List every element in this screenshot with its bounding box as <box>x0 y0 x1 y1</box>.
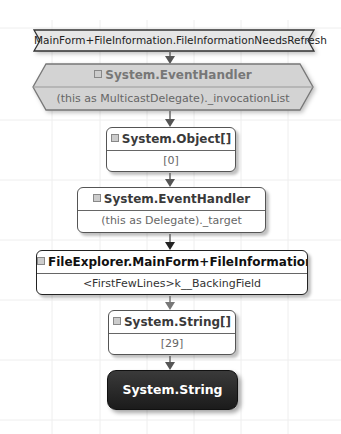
node-header: System.String[] <box>109 311 235 334</box>
arrow-down-icon <box>164 296 176 310</box>
node-path-label: <FirstFewLines>k__BackingField <box>37 274 307 294</box>
arrow-down-icon <box>164 356 176 370</box>
node-object-array[interactable]: System.Object[] [0] <box>106 127 236 172</box>
node-header: System.EventHandler <box>78 188 265 211</box>
node-header: System.EventHandler <box>32 63 314 87</box>
node-eventhandler-invocationlist[interactable]: System.EventHandler (this as MulticastDe… <box>32 0 314 120</box>
node-path-label: (this as Delegate)._target <box>78 211 265 231</box>
node-path-label: (this as MulticastDelegate)._invocationL… <box>32 88 314 110</box>
node-eventhandler-target[interactable]: System.EventHandler (this as Delegate)._… <box>77 187 266 233</box>
arrow-down-icon <box>164 111 176 127</box>
node-type-label: FileExplorer.MainForm+FileInformation <box>48 255 308 269</box>
expand-icon[interactable] <box>93 194 101 202</box>
expand-icon[interactable] <box>94 70 102 78</box>
expand-icon[interactable] <box>111 134 119 142</box>
node-header: System.Object[] <box>107 128 235 151</box>
node-fileinformation[interactable]: FileExplorer.MainForm+FileInformation <F… <box>36 250 308 295</box>
node-string-target[interactable]: System.String <box>107 370 238 410</box>
node-path-label: [29] <box>109 334 235 354</box>
node-path-label: [0] <box>107 151 235 171</box>
expand-icon[interactable] <box>113 317 121 325</box>
arrow-down-icon <box>164 234 176 250</box>
node-string-array[interactable]: System.String[] [29] <box>108 310 236 355</box>
expand-icon[interactable] <box>37 257 45 265</box>
node-type-label: System.String <box>122 382 222 397</box>
node-type-label: System.String[] <box>124 315 231 329</box>
arrow-down-icon <box>164 173 176 187</box>
node-header: FileExplorer.MainForm+FileInformation <box>37 251 307 274</box>
node-type-label: System.Object[] <box>122 132 231 146</box>
node-type-label: System.EventHandler <box>104 192 250 206</box>
node-type-label: System.EventHandler <box>105 68 251 82</box>
